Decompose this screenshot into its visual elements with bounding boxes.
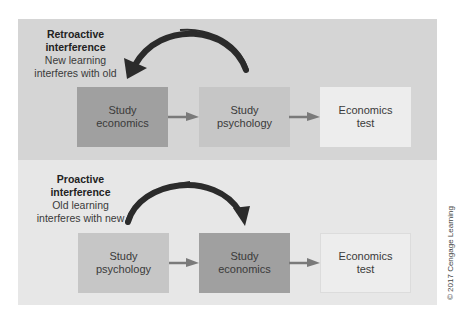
box-line-1: Study xyxy=(108,104,136,117)
box-line-2: psychology xyxy=(217,117,272,130)
box-line-2: economics xyxy=(96,117,149,130)
box-line-2: test xyxy=(357,263,375,276)
pro-box-study-economics: Study economics xyxy=(199,233,290,293)
copyright-text: © 2017 Cengage Learning xyxy=(446,206,455,300)
retro-box-economics-test: Economics test xyxy=(320,87,411,147)
box-line-2: psychology xyxy=(96,263,151,276)
proactive-label: Proactive interference Old learning inte… xyxy=(28,173,133,225)
retro-box-study-psychology: Study psychology xyxy=(199,87,290,147)
box-line-2: economics xyxy=(218,263,271,276)
box-line-1: Study xyxy=(230,250,258,263)
box-line-1: Economics xyxy=(339,104,393,117)
retroactive-label: Retroactive interference New learning in… xyxy=(28,28,123,80)
retroactive-desc-1: New learning xyxy=(28,54,123,67)
proactive-title-2: interference xyxy=(28,186,133,199)
proactive-desc-1: Old learning xyxy=(28,199,133,212)
box-line-1: Study xyxy=(230,104,258,117)
proactive-title-1: Proactive xyxy=(28,173,133,186)
pro-box-study-psychology: Study psychology xyxy=(78,233,169,293)
retroactive-title-2: interference xyxy=(28,41,123,54)
pro-box-economics-test: Economics test xyxy=(320,233,411,293)
retroactive-title-1: Retroactive xyxy=(28,28,123,41)
box-line-1: Economics xyxy=(339,250,393,263)
retroactive-desc-2: interferes with old xyxy=(28,67,123,80)
box-line-2: test xyxy=(357,117,375,130)
box-line-1: Study xyxy=(109,250,137,263)
proactive-desc-2: interferes with new xyxy=(28,212,133,225)
retro-box-study-economics: Study economics xyxy=(77,87,168,147)
